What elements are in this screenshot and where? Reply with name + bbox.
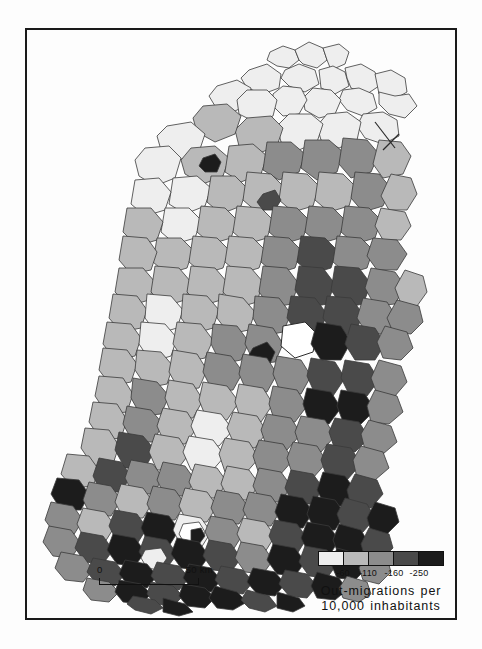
scale-bar: 0 50 km xyxy=(97,564,213,590)
scale-bar-line xyxy=(99,578,199,585)
choropleth-map-svg[interactable] xyxy=(27,30,455,618)
figure-container: -60 -110 -160 -250 Out-migrations per 10… xyxy=(0,0,482,649)
legend-tick-3: -160 xyxy=(385,568,404,579)
legend-swatch-4 xyxy=(394,552,419,565)
legend-tick-1: -60 xyxy=(336,568,350,579)
legend-swatch-3 xyxy=(369,552,394,565)
legend-tick-4: -250 xyxy=(410,568,429,579)
scale-end-label: 50 km xyxy=(186,564,213,575)
scale-bar-labels: 0 50 km xyxy=(97,564,213,576)
legend-tick-labels: -60 -110 -160 -250 xyxy=(318,568,444,581)
legend-swatch-5 xyxy=(419,552,443,565)
legend-tick-2: -110 xyxy=(359,568,377,579)
map-frame: -60 -110 -160 -250 Out-migrations per 10… xyxy=(25,28,457,620)
legend-caption-line1: Out-migrations per xyxy=(311,584,451,599)
scale-start-label: 0 xyxy=(97,564,103,575)
legend-swatch-2 xyxy=(344,552,369,565)
map-canvas[interactable] xyxy=(27,30,455,618)
legend-swatch-1 xyxy=(319,552,344,565)
legend-swatch-bar xyxy=(318,551,444,566)
map-legend: -60 -110 -160 -250 Out-migrations per 10… xyxy=(311,551,451,614)
legend-caption: Out-migrations per 10,000 inhabitants xyxy=(311,584,451,614)
district-polygons xyxy=(43,42,427,616)
legend-caption-line2: 10,000 inhabitants xyxy=(311,599,451,614)
